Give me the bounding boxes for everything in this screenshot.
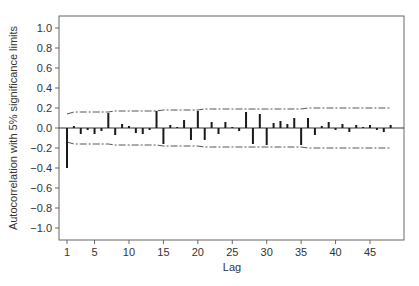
acf-bar (238, 128, 240, 131)
acf-bar (66, 128, 68, 168)
y-tick-label: 0.8 (37, 42, 52, 54)
acf-bar (176, 127, 178, 128)
x-tick-label: 45 (364, 246, 376, 258)
acf-bar (114, 128, 116, 135)
x-axis-label: Lag (223, 261, 241, 273)
x-tick-label: 25 (226, 246, 238, 258)
acf-bar (314, 128, 316, 135)
acf-bar (197, 111, 199, 128)
acf-bar (259, 114, 261, 128)
acf-bar (190, 128, 192, 140)
x-tick-label: 10 (123, 246, 135, 258)
x-tick-label: 5 (91, 246, 97, 258)
acf-bar (169, 125, 171, 128)
x-tick-label: 30 (261, 246, 273, 258)
y-tick-label: −1.0 (30, 222, 52, 234)
acf-bar (162, 128, 164, 144)
acf-bar (245, 112, 247, 128)
acf-bar (252, 128, 254, 144)
acf-bar (156, 111, 158, 128)
acf-bar (142, 128, 144, 134)
acf-bar (341, 124, 343, 128)
x-tick-label: 35 (295, 246, 307, 258)
acf-bar (369, 125, 371, 128)
x-tick-label: 20 (192, 246, 204, 258)
acf-bar (231, 127, 233, 128)
acf-bar (128, 126, 130, 128)
y-tick-label: −0.2 (30, 142, 52, 154)
acf-bar (279, 121, 281, 128)
acf-bar (73, 126, 75, 128)
x-tick-label: 1 (64, 246, 70, 258)
acf-bar (224, 122, 226, 128)
acf-bar (266, 128, 268, 145)
acf-bar (204, 128, 206, 140)
acf-bar (80, 128, 82, 134)
acf-bar (390, 125, 392, 128)
acf-bar (335, 128, 337, 130)
acf-bar (355, 125, 357, 128)
acf-bar (273, 123, 275, 128)
acf-bar (286, 124, 288, 128)
acf-bar (135, 128, 137, 133)
acf-chart: 1.00.80.60.40.20.0−0.2−0.4−0.6−0.8−1.0 1… (0, 0, 419, 286)
acf-bar (183, 120, 185, 128)
acf-bar (293, 118, 295, 128)
y-tick-label: 0.2 (37, 102, 52, 114)
acf-bar (321, 126, 323, 128)
y-tick-label: 0.6 (37, 62, 52, 74)
y-tick-label: 0.0 (37, 122, 52, 134)
acf-bar (94, 128, 96, 134)
acf-bar (376, 128, 378, 130)
acf-bar (383, 128, 385, 132)
acf-bar (348, 128, 350, 132)
y-tick-label: 0.4 (37, 82, 52, 94)
acf-bar (328, 122, 330, 128)
y-tick-label: 1.0 (37, 22, 52, 34)
acf-bar (107, 113, 109, 128)
acf-bar (100, 128, 102, 131)
acf-bar (362, 127, 364, 128)
y-axis: 1.00.80.60.40.20.0−0.2−0.4−0.6−0.8−1.0 (30, 22, 59, 234)
y-tick-label: −0.4 (30, 162, 52, 174)
x-axis: 151015202530354045 (64, 240, 376, 258)
y-tick-label: −0.8 (30, 202, 52, 214)
acf-bar (218, 128, 220, 134)
acf-bar (211, 122, 213, 128)
x-tick-label: 40 (329, 246, 341, 258)
acf-bar (149, 128, 151, 130)
y-tick-label: −0.6 (30, 182, 52, 194)
acf-bar (307, 118, 309, 128)
acf-bar (87, 128, 89, 130)
x-tick-label: 15 (157, 246, 169, 258)
acf-bar (121, 124, 123, 128)
y-axis-label: Autocorrelation with 5% significance lim… (7, 25, 19, 230)
acf-bar (300, 128, 302, 145)
